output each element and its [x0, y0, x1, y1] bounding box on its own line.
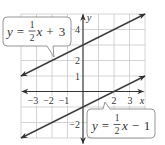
upper-eq-numerator: 1	[30, 20, 35, 30]
lower-eq-equals: =	[102, 118, 109, 133]
lower-eq-op: −	[132, 118, 139, 133]
y-tick-1: 1	[75, 71, 80, 82]
x-tick-3: 3	[128, 95, 133, 106]
lower-eq-lhs: y	[90, 118, 98, 133]
upper-eq-op: +	[46, 24, 53, 39]
upper-eq-equals: =	[17, 24, 24, 39]
upper-eq-lhs: y	[5, 24, 13, 39]
upper-eq-denominator: 2	[30, 33, 35, 43]
upper-eq-const: 3	[59, 24, 66, 39]
x-tick-neg2: −2	[43, 95, 54, 106]
x-tick-neg3: −3	[28, 95, 39, 106]
x-tick-neg1: −1	[59, 95, 70, 106]
lower-eq-numerator: 1	[115, 113, 120, 123]
lower-eq-denominator: 2	[115, 126, 120, 136]
callout-upper-equation: y = 1 2 x + 3	[3, 17, 71, 57]
y-tick-2: 2	[75, 55, 80, 66]
lower-eq-var: x	[121, 118, 128, 133]
x-tick-labels: −3 −2 −1 2 3	[28, 95, 133, 106]
y-axis-label: y	[86, 12, 92, 23]
coordinate-graph: 4 2 1 −2 −3 −2 −1 2 3 x y y = 1 2 x + 3	[0, 0, 165, 145]
upper-eq-var: x	[36, 24, 43, 39]
lower-eq-const: 1	[144, 118, 151, 133]
x-tick-2: 2	[112, 95, 117, 106]
y-tick-neg2: −2	[69, 119, 80, 130]
graph-canvas: 4 2 1 −2 −3 −2 −1 2 3 x y y = 1 2 x + 3	[0, 0, 165, 145]
y-tick-4: 4	[75, 24, 80, 35]
x-axis-label: x	[139, 95, 145, 106]
